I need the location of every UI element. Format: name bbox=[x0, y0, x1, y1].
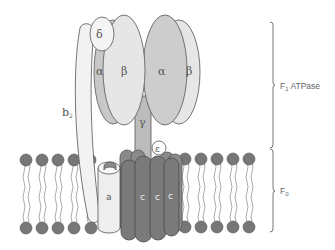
a-label: a bbox=[106, 192, 112, 202]
f1-brace bbox=[270, 22, 275, 148]
f0-brace bbox=[270, 149, 275, 232]
f1-label: F1 ATPase bbox=[280, 81, 320, 92]
gamma-label: γ bbox=[139, 116, 146, 129]
lipid-heads-right bbox=[179, 153, 255, 233]
beta-right-label: β bbox=[186, 65, 192, 78]
atp-synthase-diagram: b2 γ δ α β α β ε a c c c bbox=[0, 0, 335, 250]
c2-label: c bbox=[155, 192, 160, 202]
membrane-right bbox=[179, 153, 255, 233]
alpha-right-label: α bbox=[158, 65, 166, 78]
alpha-left-label: α bbox=[96, 65, 104, 78]
delta-label: δ bbox=[96, 28, 103, 41]
epsilon-label: ε bbox=[155, 144, 160, 154]
f0-label: F0 bbox=[280, 186, 289, 197]
c1-label: c bbox=[140, 192, 145, 202]
beta-left-label: β bbox=[121, 65, 127, 78]
lipid-tails-right bbox=[182, 162, 253, 222]
b2-label: b2 bbox=[62, 106, 73, 119]
c3-label: c bbox=[168, 191, 173, 201]
lipid-tails-left bbox=[23, 162, 89, 222]
